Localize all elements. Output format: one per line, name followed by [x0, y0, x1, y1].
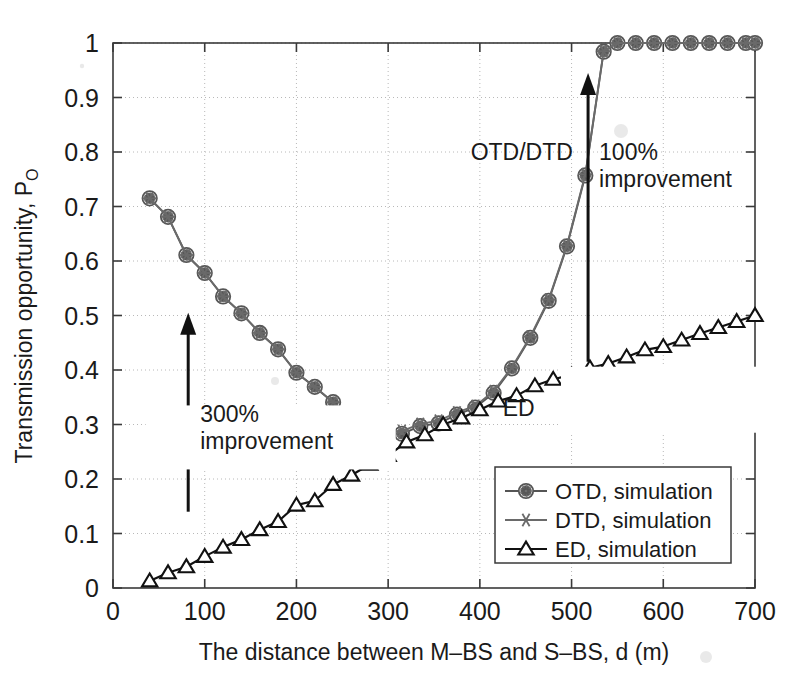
y-tick-label: 0	[85, 574, 99, 602]
annotation-text-mask-right	[561, 367, 761, 433]
y-axis-title: Transmission opportunity, PO	[11, 169, 41, 464]
x-tick-label: 200	[276, 597, 318, 625]
y-tick-label: 0.3	[64, 411, 99, 439]
legend: OTD, simulationDTD, simulationED, simula…	[495, 467, 731, 563]
y-tick-label: 1	[85, 29, 99, 57]
y-tick-label: 0.6	[64, 247, 99, 275]
legend-marker-circle-dot	[524, 489, 529, 494]
annotation-label: OTD/DTD	[471, 139, 573, 165]
x-tick-label: 0	[106, 597, 120, 625]
legend-entry-label: ED, simulation	[555, 537, 697, 562]
annotation-label: ED	[503, 395, 535, 421]
chart-svg: 00.10.20.30.40.50.60.70.80.9101002003004…	[0, 0, 797, 688]
y-tick-label: 0.9	[64, 84, 99, 112]
y-axis-title-subscript: O	[24, 169, 41, 181]
legend-entry-label: OTD, simulation	[555, 479, 713, 504]
x-axis-title: The distance between M–BS and S–BS, d (m…	[199, 639, 669, 665]
y-tick-label: 0.5	[64, 302, 99, 330]
x-tick-label: 300	[367, 597, 409, 625]
legend-entry-label: DTD, simulation	[555, 508, 711, 533]
annotation-label: improvement	[599, 166, 733, 192]
x-tick-label: 700	[734, 597, 776, 625]
annotation-label: improvement	[200, 428, 334, 454]
annotation-label: 300%	[200, 401, 259, 427]
x-tick-label: 500	[551, 597, 593, 625]
y-tick-label: 0.4	[64, 356, 99, 384]
figure-container: 00.10.20.30.40.50.60.70.80.9101002003004…	[0, 0, 797, 688]
y-tick-label: 0.8	[64, 138, 99, 166]
svg-text:Transmission opportunity, PO: Transmission opportunity, PO	[11, 169, 41, 464]
y-tick-label: 0.7	[64, 193, 99, 221]
y-tick-label: 0.2	[64, 465, 99, 493]
x-tick-label: 100	[184, 597, 226, 625]
y-tick-label: 0.1	[64, 520, 99, 548]
x-tick-label: 600	[642, 597, 684, 625]
x-tick-label: 400	[459, 597, 501, 625]
annotation-label: 100%	[599, 139, 658, 165]
y-axis-title-text: Transmission opportunity, P	[11, 181, 37, 464]
